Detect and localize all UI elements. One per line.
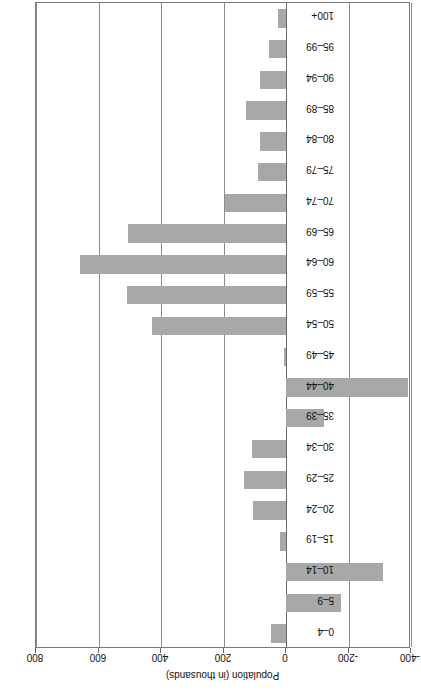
category-label-70–74: 70–74 [290,195,334,206]
bar-30–34 [252,440,286,458]
bar-row [36,557,409,588]
category-label-30–34: 30–34 [290,441,334,452]
category-label-20–24: 20–24 [290,503,334,514]
category-label-40–44: 40–44 [290,380,334,391]
bar-row [36,157,409,188]
bar-row [36,403,409,434]
bar-70–74 [225,194,286,212]
value-tick-label-800: 800 [15,652,55,663]
category-label-100+: 100+ [290,10,334,21]
bar-25–29 [244,471,286,489]
category-label-90–94: 90–94 [290,72,334,83]
category-label-35–39: 35–39 [290,410,334,421]
category-label-25–29: 25–29 [290,472,334,483]
bar-row [36,434,409,465]
category-label-85–89: 85–89 [290,103,334,114]
category-label-95–99: 95–99 [290,41,334,52]
bar-row [36,188,409,219]
bar-45–49 [284,348,286,366]
bar-row [36,526,409,557]
bar-row [36,280,409,311]
bar-85–89 [246,101,286,119]
value-tick-label-400: 400 [140,652,180,663]
bar-row [36,95,409,126]
bar-row [36,65,409,96]
category-label-55–59: 55–59 [290,287,334,298]
bar-50–54 [152,317,286,335]
bar-row [36,618,409,649]
category-label-50–54: 50–54 [290,318,334,329]
bar-row [36,311,409,342]
bar-55–59 [127,286,286,304]
bar-100+ [278,9,286,27]
bar-75–79 [258,163,286,181]
bar-95–99 [269,40,286,58]
category-label-75–79: 75–79 [290,164,334,175]
category-label-0–4: 0–4 [290,626,334,637]
bar-80–84 [260,132,286,150]
value-tick-label--200: -200 [328,652,368,663]
value-tick-label-200: 200 [203,652,243,663]
bar-row [36,587,409,618]
value-tick-label-0: 0 [265,652,305,663]
bar-15–19 [280,532,286,550]
bar-0–4 [271,624,286,642]
bar-row [36,34,409,65]
value-tick-label-600: 600 [78,652,118,663]
bar-row [36,3,409,34]
category-label-5–9: 5–9 [290,595,334,606]
bar-60–64 [80,255,286,273]
value-axis-title: Population (in thousands) [35,670,410,681]
category-label-65–69: 65–69 [290,226,334,237]
bar-row [36,249,409,280]
gridline--400 [411,3,412,647]
category-label-15–19: 15–19 [290,533,334,544]
bar-row [36,341,409,372]
category-label-45–49: 45–49 [290,349,334,360]
bar-row [36,218,409,249]
value-tick-label--400: -400 [390,652,421,663]
category-label-60–64: 60–64 [290,256,334,267]
category-label-80–84: 80–84 [290,133,334,144]
category-label-10–14: 10–14 [290,564,334,575]
bar-row [36,464,409,495]
bar-row [36,372,409,403]
chart-figure: Change in Canadian Population, by Age Gr… [0,0,421,696]
bar-65–69 [128,224,286,242]
bar-20–24 [253,501,286,519]
bar-row [36,126,409,157]
bar-row [36,495,409,526]
plot-area [35,2,410,648]
bar-90–94 [260,71,286,89]
